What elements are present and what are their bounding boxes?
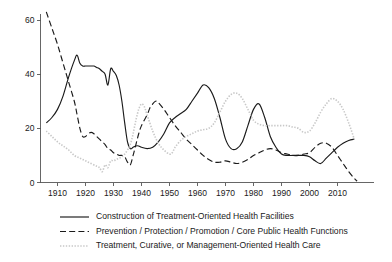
x-tick-label: 1920 (76, 188, 95, 198)
x-tick-label: 1970 (216, 188, 235, 198)
x-tick-label: 1980 (244, 188, 263, 198)
y-axis: 0204060 (25, 14, 40, 188)
x-tick-label: 1990 (272, 188, 291, 198)
series-group (46, 12, 357, 181)
y-tick-group: 0204060 (25, 15, 40, 188)
x-tick-label: 1910 (48, 188, 67, 198)
legend-label-1: Construction of Treatment-Oriented Healt… (96, 211, 294, 221)
x-tick-group: 1910192019301940195019601970198019902000… (48, 183, 347, 198)
line-chart: 0204060 19101920193019401950196019701980… (0, 0, 392, 262)
x-axis: 1910192019301940195019601970198019902000… (41, 183, 375, 198)
series-line-2 (46, 12, 357, 181)
chart-svg: 0204060 19101920193019401950196019701980… (0, 0, 392, 262)
y-tick-label: 0 (30, 178, 35, 188)
chart-legend: Construction of Treatment-Oriented Healt… (60, 211, 348, 250)
series-line-1 (46, 55, 354, 163)
x-tick-label: 2000 (300, 188, 319, 198)
x-tick-label: 1960 (188, 188, 207, 198)
x-tick-label: 1930 (104, 188, 123, 198)
x-tick-label: 2010 (328, 188, 347, 198)
legend-label-2: Prevention / Protection / Promotion / Co… (96, 226, 348, 236)
y-tick-label: 60 (25, 15, 35, 25)
y-tick-label: 20 (25, 123, 35, 133)
legend-label-3: Treatment, Curative, or Management-Orien… (96, 240, 321, 250)
x-tick-label: 1950 (160, 188, 179, 198)
y-tick-label: 40 (25, 69, 35, 79)
x-tick-label: 1940 (132, 188, 151, 198)
